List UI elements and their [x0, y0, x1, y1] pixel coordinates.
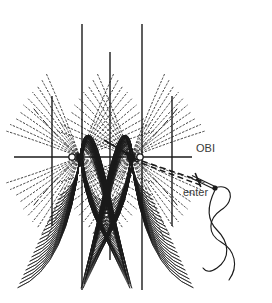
ray-trajectory-diagram: OBI enter: [0, 0, 272, 303]
focal-node-0: [69, 154, 75, 160]
label-enter: enter: [183, 186, 208, 198]
diagram-background: [0, 0, 272, 303]
focal-node-1: [77, 154, 83, 160]
label-obi: OBI: [196, 142, 215, 154]
figure-container: OBI enter: [0, 0, 272, 303]
